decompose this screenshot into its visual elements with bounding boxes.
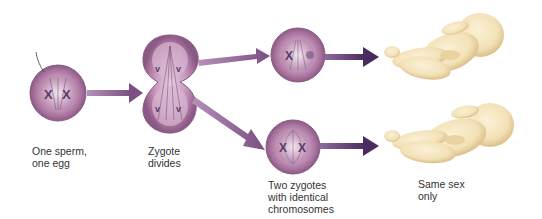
arrow-to-upper-zygote bbox=[198, 48, 270, 66]
svg-text:v: v bbox=[176, 104, 181, 114]
label-line: one egg bbox=[32, 157, 87, 169]
arrow-to-lower-baby bbox=[320, 136, 379, 156]
label-two-zygotes: Two zygotes with identical chromosomes bbox=[268, 179, 334, 215]
identical-twins-diagram: X X v v v v bbox=[0, 0, 542, 219]
arrow-to-zygote bbox=[87, 83, 143, 103]
arrow-to-upper-baby bbox=[325, 47, 379, 67]
svg-text:X: X bbox=[298, 141, 306, 155]
label-line: divides bbox=[148, 157, 181, 169]
svg-text:X: X bbox=[279, 141, 287, 155]
svg-text:v: v bbox=[155, 104, 160, 114]
label-one-sperm-one-egg: One sperm, one egg bbox=[32, 145, 87, 169]
fertilized-egg-cell: X X bbox=[30, 52, 86, 121]
svg-text:v: v bbox=[176, 64, 181, 74]
label-same-sex-only: Same sex only bbox=[418, 178, 465, 202]
svg-text:X: X bbox=[285, 49, 293, 63]
lower-baby-twin bbox=[384, 103, 514, 165]
label-line: chromosomes bbox=[268, 203, 334, 215]
label-zygote-divides: Zygote divides bbox=[148, 145, 181, 169]
label-line: One sperm, bbox=[32, 145, 87, 157]
label-line: Zygote bbox=[148, 145, 181, 157]
svg-text:v: v bbox=[155, 64, 160, 74]
lower-zygote-cell: X X bbox=[266, 120, 320, 174]
dividing-zygote: v v v v bbox=[143, 35, 198, 133]
label-line: only bbox=[418, 190, 465, 202]
arrow-to-lower-zygote bbox=[192, 97, 265, 150]
upper-baby-twin bbox=[384, 13, 504, 83]
svg-text:X: X bbox=[44, 87, 53, 102]
label-line: Same sex bbox=[418, 178, 465, 190]
upper-zygote-cell: X bbox=[271, 28, 325, 82]
svg-text:X: X bbox=[62, 87, 71, 102]
label-line: with identical bbox=[268, 191, 334, 203]
label-line: Two zygotes bbox=[268, 179, 334, 191]
